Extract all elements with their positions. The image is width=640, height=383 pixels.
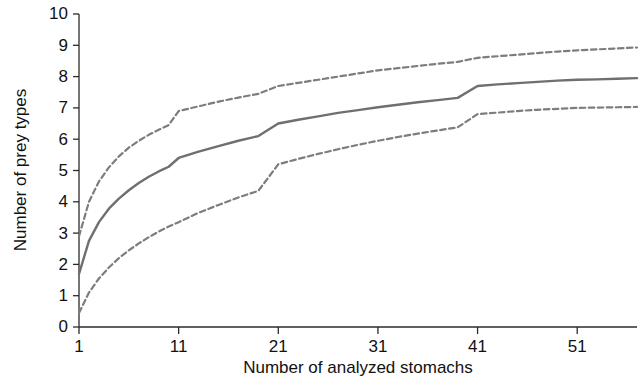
x-tick-label: 21 (269, 337, 288, 356)
y-tick-label: 6 (59, 130, 68, 149)
data-series-group (79, 47, 637, 312)
y-axis-title: Number of prey types (11, 89, 30, 252)
x-tick-label: 11 (170, 337, 188, 356)
y-axis-ticks: 012345678910 (49, 4, 79, 336)
y-tick-label: 9 (59, 36, 68, 55)
y-tick-label: 10 (49, 4, 68, 23)
x-tick-label: 41 (468, 337, 487, 356)
y-tick-label: 2 (59, 255, 68, 274)
y-tick-label: 0 (59, 317, 68, 336)
x-axis-ticks: 11121314151 (74, 327, 586, 356)
series-path (79, 78, 637, 274)
series-path (79, 107, 637, 313)
y-tick-label: 8 (59, 67, 68, 86)
chart-container: 012345678910 11121314151 Number of prey … (0, 0, 640, 383)
y-tick-label: 7 (59, 98, 68, 117)
x-tick-label: 31 (368, 337, 387, 356)
x-tick-label: 51 (568, 337, 587, 356)
y-tick-label: 3 (59, 224, 68, 243)
series-path (79, 47, 637, 236)
y-tick-label: 1 (59, 286, 68, 305)
x-tick-label: 1 (74, 337, 83, 356)
y-tick-label: 5 (59, 161, 68, 180)
x-axis-title: Number of analyzed stomachs (243, 358, 473, 377)
y-tick-label: 4 (59, 192, 68, 211)
prey-accumulation-chart: 012345678910 11121314151 Number of prey … (0, 0, 640, 383)
